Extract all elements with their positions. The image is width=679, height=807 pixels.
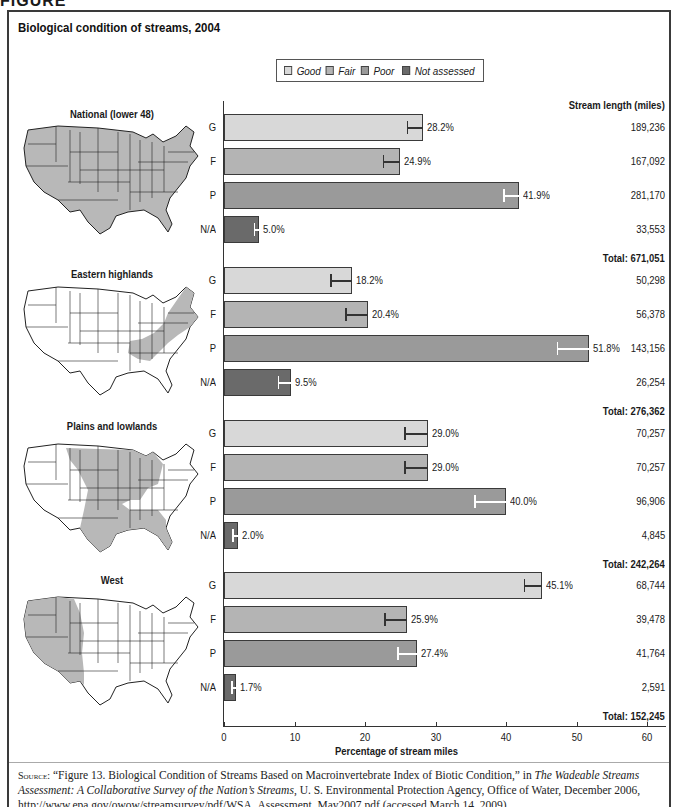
region-total: Total: 242,264 bbox=[603, 558, 665, 570]
category-label: G bbox=[193, 579, 216, 591]
legend-label: Not assessed bbox=[414, 65, 474, 77]
legend: Good Fair Poor Not assessed bbox=[276, 59, 484, 82]
x-tick bbox=[365, 722, 366, 727]
percent-label: 40.0% bbox=[510, 495, 537, 507]
stream-miles-value: 33,553 bbox=[636, 223, 665, 235]
legend-item-not-assessed: Not assessed bbox=[402, 65, 475, 77]
bar bbox=[224, 606, 407, 633]
source-divider bbox=[9, 762, 669, 763]
stream-miles-value: 4,845 bbox=[641, 529, 665, 541]
region-label-eastern-highlands: Eastern highlands bbox=[71, 268, 153, 280]
region-label-plains-lowlands: Plains and lowlands bbox=[67, 420, 157, 432]
x-tick-label: 10 bbox=[289, 731, 300, 743]
error-bar bbox=[384, 619, 407, 621]
percent-label: 25.9% bbox=[411, 613, 438, 625]
percent-label: 28.2% bbox=[427, 121, 454, 133]
percent-label: 5.0% bbox=[263, 223, 285, 235]
stream-miles-value: 70,257 bbox=[636, 427, 665, 439]
error-bar bbox=[397, 653, 417, 655]
percent-label: 45.1% bbox=[546, 579, 573, 591]
x-tick bbox=[506, 722, 507, 727]
error-bar bbox=[524, 585, 542, 587]
stream-miles-value: 96,906 bbox=[636, 495, 665, 507]
error-bar bbox=[231, 687, 236, 689]
source-note: Source: “Figure 13. Biological Condition… bbox=[18, 768, 668, 807]
region-label-national: National (lower 48) bbox=[70, 108, 154, 120]
bar bbox=[224, 335, 589, 362]
bar bbox=[224, 114, 423, 141]
x-tick bbox=[577, 722, 578, 727]
source-prefix: Source: bbox=[18, 770, 50, 781]
percent-label: 1.7% bbox=[240, 681, 262, 693]
legend-label: Fair bbox=[338, 65, 355, 77]
legend-label: Poor bbox=[373, 65, 394, 77]
x-tick-label: 60 bbox=[642, 731, 653, 743]
x-tick bbox=[224, 722, 225, 727]
x-tick bbox=[436, 722, 437, 727]
legend-swatch-fair bbox=[326, 66, 334, 75]
error-bar bbox=[232, 535, 238, 537]
region-total: Total: 276,362 bbox=[603, 405, 665, 417]
legend-item-good: Good bbox=[284, 65, 321, 77]
figure-label-clipped: FIGURE bbox=[0, 0, 120, 6]
bar bbox=[224, 454, 428, 481]
map-west bbox=[18, 593, 202, 707]
region-total: Total: 152,245 bbox=[603, 710, 665, 722]
bar bbox=[224, 182, 519, 209]
stream-miles-value: 56,378 bbox=[636, 308, 665, 320]
error-bar bbox=[404, 433, 428, 435]
stream-miles-value: 39,478 bbox=[636, 613, 665, 625]
legend-label: Good bbox=[296, 65, 320, 77]
x-tick bbox=[647, 722, 648, 727]
percent-label: 29.0% bbox=[432, 427, 459, 439]
map-plains-lowlands bbox=[18, 440, 202, 554]
x-tick-label: 20 bbox=[360, 731, 371, 743]
stream-miles-value: 189,236 bbox=[631, 121, 665, 133]
error-bar bbox=[407, 127, 423, 129]
bar bbox=[224, 148, 400, 175]
percent-label: 51.8% bbox=[593, 342, 620, 354]
error-bar bbox=[404, 467, 428, 469]
percent-label: 2.0% bbox=[242, 529, 264, 541]
legend-swatch-good bbox=[284, 66, 292, 75]
x-axis-title: Percentage of stream miles bbox=[335, 745, 458, 757]
error-bar bbox=[330, 280, 352, 282]
x-tick-label: 40 bbox=[501, 731, 512, 743]
chart-title: Biological condition of streams, 2004 bbox=[18, 20, 220, 35]
stream-miles-value: 167,092 bbox=[631, 155, 665, 167]
stream-length-header: Stream length (miles) bbox=[569, 99, 665, 111]
percent-label: 9.5% bbox=[295, 376, 317, 388]
source-text-1: “Figure 13. Biological Condition of Stre… bbox=[50, 769, 535, 781]
legend-swatch-not-assessed bbox=[402, 66, 410, 75]
percent-label: 27.4% bbox=[421, 647, 448, 659]
bar bbox=[224, 488, 506, 515]
category-label: G bbox=[193, 427, 216, 439]
x-tick-label: 30 bbox=[430, 731, 441, 743]
percent-label: 24.9% bbox=[404, 155, 431, 167]
bar bbox=[224, 420, 428, 447]
percent-label: 20.4% bbox=[372, 308, 399, 320]
map-eastern-highlands bbox=[18, 283, 202, 397]
x-axis-line bbox=[223, 726, 666, 727]
stream-miles-value: 2,591 bbox=[641, 681, 665, 693]
bar bbox=[224, 572, 542, 599]
x-tick-label: 50 bbox=[571, 731, 582, 743]
stream-miles-value: 143,156 bbox=[631, 342, 665, 354]
error-bar bbox=[278, 382, 291, 384]
legend-item-fair: Fair bbox=[326, 65, 356, 77]
percent-label: 18.2% bbox=[356, 274, 383, 286]
error-bar bbox=[557, 348, 589, 350]
stream-miles-value: 70,257 bbox=[636, 461, 665, 473]
error-bar bbox=[345, 314, 368, 316]
x-tick bbox=[295, 722, 296, 727]
stream-miles-value: 50,298 bbox=[636, 274, 665, 286]
stream-miles-value: 41,764 bbox=[636, 647, 665, 659]
x-tick-label: 0 bbox=[221, 731, 226, 743]
stream-miles-value: 26,254 bbox=[636, 376, 665, 388]
stream-miles-value: 281,170 bbox=[631, 189, 665, 201]
legend-swatch-poor bbox=[361, 66, 369, 75]
region-total: Total: 671,051 bbox=[603, 252, 665, 264]
region-label-west: West bbox=[101, 574, 123, 586]
legend-item-poor: Poor bbox=[361, 65, 395, 77]
error-bar bbox=[474, 501, 506, 503]
